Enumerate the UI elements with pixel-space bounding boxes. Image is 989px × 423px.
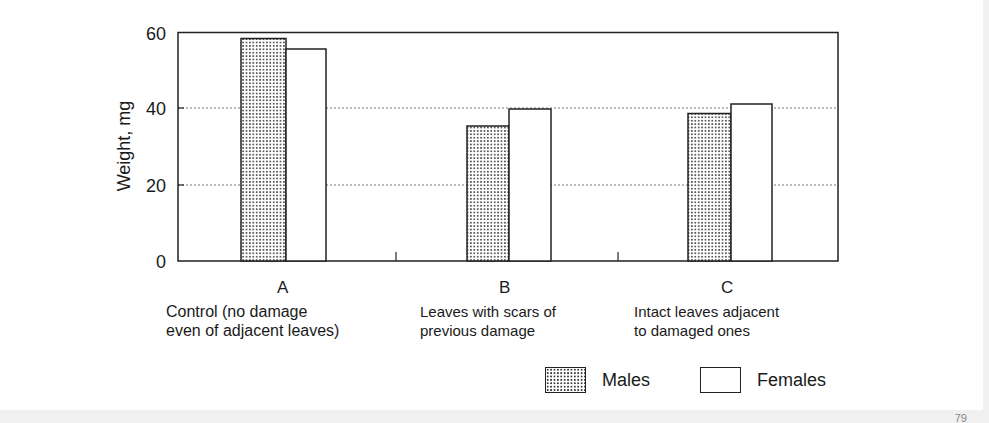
bar-c-males — [688, 114, 731, 262]
legend-males: Males — [545, 367, 650, 393]
category-desc-a-line2: even of adjacent leaves) — [166, 321, 339, 340]
y-tick-40: 40 — [146, 99, 166, 119]
category-desc-c: Intact leaves adjacent to damaged ones — [634, 302, 779, 340]
category-letter-c: C — [721, 278, 733, 298]
bar-a-males — [241, 39, 286, 262]
category-letter-b: B — [499, 278, 510, 298]
y-tick-60: 60 — [146, 24, 166, 44]
females-swatch-icon — [700, 367, 741, 393]
legend-females: Females — [700, 367, 826, 393]
legend-males-label: Males — [602, 370, 650, 391]
page-number: 79 — [955, 412, 967, 423]
y-tick-0: 0 — [156, 252, 166, 272]
bar-c-females — [731, 104, 772, 261]
category-desc-a-line1: Control (no damage — [166, 302, 339, 321]
bar-b-males — [467, 126, 509, 261]
category-desc-b: Leaves with scars of previous damage — [420, 302, 556, 340]
y-tick-labels: 60 40 20 0 — [146, 24, 166, 272]
category-letter-a: A — [277, 278, 288, 298]
y-axis-label: Weight, mg — [114, 101, 134, 192]
bar-a-females — [286, 49, 326, 261]
bar-chart: 60 40 20 0 Weight, mg — [0, 0, 989, 300]
category-desc-b-line2: previous damage — [420, 321, 556, 340]
category-desc-c-line1: Intact leaves adjacent — [634, 302, 779, 321]
caption-strip — [0, 410, 989, 423]
y-tick-20: 20 — [146, 176, 166, 196]
category-desc-a: Control (no damage even of adjacent leav… — [166, 302, 339, 340]
bars — [241, 39, 772, 262]
males-swatch-icon — [545, 367, 586, 393]
category-desc-b-line1: Leaves with scars of — [420, 302, 556, 321]
y-ticks — [178, 108, 184, 185]
category-desc-c-line2: to damaged ones — [634, 321, 779, 340]
legend-females-label: Females — [757, 370, 826, 391]
bar-b-females — [509, 109, 551, 261]
